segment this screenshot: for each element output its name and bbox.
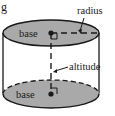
radius-label: radius (77, 5, 103, 16)
top-center-point (48, 30, 53, 35)
cylinder-diagram: g base base radius altitude (0, 0, 115, 116)
panel-letter: g (1, 0, 7, 14)
altitude-arrowhead (53, 69, 57, 73)
top-base-label: base (19, 28, 38, 39)
bottom-center-point (48, 91, 53, 96)
altitude-label: altitude (69, 61, 101, 72)
bottom-base-label: base (16, 89, 35, 100)
